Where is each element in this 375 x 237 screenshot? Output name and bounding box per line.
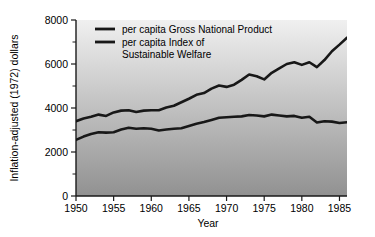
x-tick-label: 1980: [290, 202, 314, 214]
y-tick-label: 6000: [45, 58, 69, 70]
legend-label-gnp: per capita Gross National Product: [122, 24, 272, 35]
y-tick-label: 0: [62, 190, 68, 202]
x-tick-label: 1955: [102, 202, 126, 214]
y-axis-title: Inflation-adjusted (1972) dollars: [8, 34, 20, 181]
legend-label-isw-line2: Sustainable Welfare: [122, 49, 212, 60]
legend-label-isw-line1: per capita Index of: [122, 37, 204, 48]
x-tick-label: 1950: [64, 202, 88, 214]
y-tick-label: 4000: [45, 102, 69, 114]
plot-area-background: [76, 20, 347, 196]
x-tick-label: 1985: [328, 202, 352, 214]
x-tick-label: 1970: [215, 202, 239, 214]
line-chart: 02000400060008000 1950195519601965197019…: [0, 0, 375, 237]
y-tick-label: 8000: [45, 14, 69, 26]
x-tick-label: 1975: [253, 202, 277, 214]
x-axis-title: Year: [197, 217, 219, 229]
y-tick-label: 2000: [45, 146, 69, 158]
x-tick-label: 1965: [177, 202, 201, 214]
x-tick-label: 1960: [140, 202, 164, 214]
chart-figure: 02000400060008000 1950195519601965197019…: [0, 0, 375, 237]
